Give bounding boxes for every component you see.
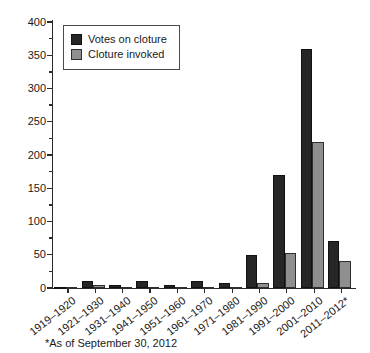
y-major-tick bbox=[47, 188, 52, 189]
y-major-tick bbox=[47, 287, 52, 288]
y-major-tick bbox=[47, 21, 52, 22]
x-tick bbox=[204, 289, 205, 293]
y-tick-label: 100 bbox=[16, 216, 46, 227]
y-minor-tick bbox=[49, 71, 52, 72]
bar-votes-on-cloture bbox=[109, 285, 121, 288]
x-tick bbox=[232, 289, 233, 293]
x-tick bbox=[286, 289, 287, 293]
bar-votes-on-cloture bbox=[328, 241, 340, 288]
legend-label: Votes on cloture bbox=[88, 33, 167, 46]
y-minor-tick bbox=[49, 237, 52, 238]
y-minor-tick bbox=[49, 171, 52, 172]
bar-votes-on-cloture bbox=[246, 255, 258, 288]
bar-votes-on-cloture bbox=[191, 281, 203, 288]
x-tick bbox=[341, 289, 342, 293]
x-tick bbox=[149, 289, 150, 293]
y-tick-label: 150 bbox=[16, 183, 46, 194]
y-minor-tick bbox=[49, 138, 52, 139]
bar-votes-on-cloture bbox=[301, 49, 313, 288]
legend-item-cloture-invoked: Cloture invoked bbox=[71, 48, 167, 61]
y-major-tick bbox=[47, 254, 52, 255]
y-minor-tick bbox=[49, 271, 52, 272]
y-axis-line bbox=[52, 20, 53, 289]
y-tick-label: 300 bbox=[16, 83, 46, 94]
bar-cloture-invoked bbox=[121, 287, 133, 289]
y-major-tick bbox=[47, 55, 52, 56]
y-major-tick bbox=[47, 88, 52, 89]
y-minor-tick bbox=[49, 204, 52, 205]
bar-cloture-invoked bbox=[285, 253, 297, 288]
bar-cloture-invoked bbox=[93, 285, 105, 288]
legend-label: Cloture invoked bbox=[88, 48, 164, 61]
bar-cloture-invoked bbox=[339, 261, 351, 288]
y-tick-label: 350 bbox=[16, 50, 46, 61]
y-tick-label: 400 bbox=[16, 17, 46, 28]
y-tick-label: 250 bbox=[16, 116, 46, 127]
bar-cloture-invoked bbox=[148, 287, 160, 289]
bar-cloture-invoked bbox=[257, 283, 269, 288]
bar-votes-on-cloture bbox=[219, 283, 231, 288]
cloture-votes-bar-chart: Votes on cloture Cloture invoked *As of … bbox=[0, 0, 370, 353]
legend: Votes on cloture Cloture invoked bbox=[63, 25, 180, 70]
legend-item-votes-on-cloture: Votes on cloture bbox=[71, 33, 167, 46]
bar-votes-on-cloture bbox=[164, 285, 176, 288]
bar-votes-on-cloture bbox=[273, 175, 285, 288]
y-major-tick bbox=[47, 121, 52, 122]
footnote: *As of September 30, 2012 bbox=[45, 337, 177, 349]
x-tick bbox=[67, 289, 68, 293]
bar-cloture-invoked bbox=[203, 287, 215, 289]
x-tick bbox=[314, 289, 315, 293]
y-minor-tick bbox=[49, 38, 52, 39]
y-tick-label: 200 bbox=[16, 150, 46, 161]
votes-on-cloture-swatch-icon bbox=[71, 34, 82, 45]
y-tick-label: 50 bbox=[16, 249, 46, 260]
bar-cloture-invoked bbox=[312, 142, 324, 288]
x-tick bbox=[177, 289, 178, 293]
bar-votes-on-cloture bbox=[54, 287, 66, 289]
y-major-tick bbox=[47, 221, 52, 222]
x-tick bbox=[95, 289, 96, 293]
x-tick bbox=[122, 289, 123, 293]
y-tick-label: 0 bbox=[16, 283, 46, 294]
cloture-invoked-swatch-icon bbox=[71, 49, 82, 60]
y-major-tick bbox=[47, 154, 52, 155]
x-tick bbox=[259, 289, 260, 293]
bar-votes-on-cloture bbox=[136, 281, 148, 288]
bar-votes-on-cloture bbox=[82, 281, 94, 288]
y-minor-tick bbox=[49, 104, 52, 105]
